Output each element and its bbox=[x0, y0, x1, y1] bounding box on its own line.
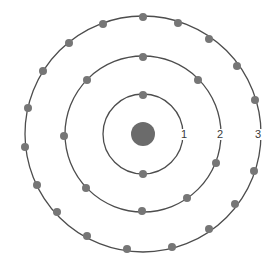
bohr-atom-diagram: 1 2 3 bbox=[0, 0, 271, 262]
electron bbox=[251, 96, 259, 104]
electron bbox=[82, 184, 90, 192]
electron bbox=[183, 194, 191, 202]
shell-label-3: 3 bbox=[255, 128, 261, 140]
electron bbox=[174, 19, 182, 27]
electron bbox=[212, 159, 220, 167]
electron bbox=[250, 167, 258, 175]
electron bbox=[231, 200, 239, 208]
electron bbox=[205, 225, 213, 233]
electron bbox=[194, 76, 202, 84]
electron bbox=[99, 20, 107, 28]
electron bbox=[139, 91, 147, 99]
electron bbox=[139, 170, 147, 178]
electron bbox=[83, 232, 91, 240]
electron bbox=[24, 104, 32, 112]
electron bbox=[65, 39, 73, 47]
shell-label-1: 1 bbox=[181, 128, 187, 140]
shell-label-2: 2 bbox=[217, 128, 223, 140]
electron bbox=[33, 181, 41, 189]
electron bbox=[123, 245, 131, 253]
nucleus bbox=[131, 122, 155, 146]
electron bbox=[60, 132, 68, 140]
electron bbox=[39, 67, 47, 75]
electron bbox=[139, 13, 147, 21]
electron bbox=[139, 53, 147, 61]
electron bbox=[53, 208, 61, 216]
electron bbox=[168, 243, 176, 251]
electron bbox=[83, 76, 91, 84]
electron bbox=[21, 143, 29, 151]
electron bbox=[205, 35, 213, 43]
electron bbox=[138, 207, 146, 215]
electron bbox=[233, 62, 241, 70]
shell-labels: 1 2 3 bbox=[181, 128, 261, 140]
